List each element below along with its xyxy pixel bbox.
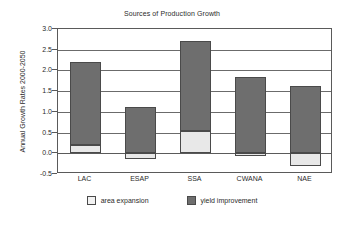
y-tick-label: -0.5 xyxy=(28,170,52,177)
y-tick-label: 0.5 xyxy=(28,128,52,135)
bar-segment-area-expansion xyxy=(235,153,266,155)
y-tick-label: 2.0 xyxy=(28,66,52,73)
chart-title: Sources of Production Growth xyxy=(0,10,344,17)
y-tick-label: 1.0 xyxy=(28,107,52,114)
legend-entry[interactable]: area expansion xyxy=(87,196,149,205)
bar-segment-area-expansion xyxy=(125,153,156,158)
y-axis-title: Annual Growth Rates 2000-2050 xyxy=(19,37,26,167)
bar-segment-yield-improvement xyxy=(125,107,156,153)
y-tick-mark xyxy=(52,173,57,174)
bar-segment-yield-improvement xyxy=(290,86,321,153)
bar-segment-area-expansion xyxy=(180,131,211,153)
bar-segment-yield-improvement xyxy=(180,41,211,132)
bar-segment-area-expansion xyxy=(290,153,321,165)
light-square-swatch xyxy=(87,196,96,205)
chart-legend: area expansionyield improvement xyxy=(0,196,344,205)
chart-figure: Sources of Production Growth Annual Grow… xyxy=(0,0,344,225)
bar-segment-area-expansion xyxy=(70,145,101,153)
bar-segment-yield-improvement xyxy=(70,62,101,145)
bar-segment-yield-improvement xyxy=(235,77,266,154)
x-tick-label: LAC xyxy=(55,175,115,182)
x-tick-label: CWANA xyxy=(220,175,280,182)
x-tick-label: ESAP xyxy=(110,175,170,182)
y-tick-label: 1.5 xyxy=(28,87,52,94)
legend-label: yield improvement xyxy=(201,197,258,204)
dark-square-swatch xyxy=(187,196,196,205)
y-tick-label: 3.0 xyxy=(28,25,52,32)
gridline xyxy=(58,29,331,30)
legend-label: area expansion xyxy=(101,197,149,204)
x-tick-label: SSA xyxy=(165,175,225,182)
y-tick-label: 0.0 xyxy=(28,149,52,156)
x-tick-label: NAE xyxy=(275,175,335,182)
legend-entry[interactable]: yield improvement xyxy=(187,196,258,205)
y-tick-label: 2.5 xyxy=(28,45,52,52)
plot-area xyxy=(57,28,332,173)
